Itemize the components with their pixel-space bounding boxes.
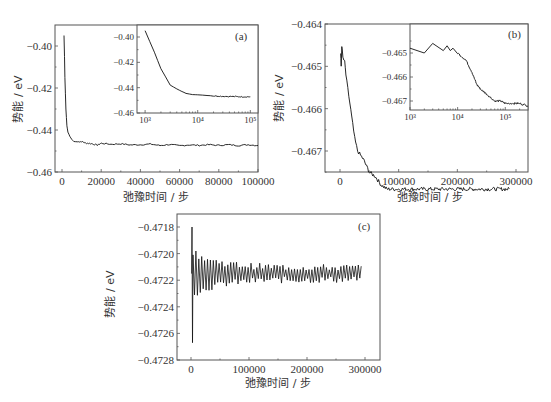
y-tick-label: −0.467 bbox=[291, 145, 322, 157]
y-tick-label: −0.465 bbox=[382, 48, 408, 58]
y-tick-label: −0.40 bbox=[113, 32, 134, 42]
chart-a-ylabel: 势能 / eV bbox=[11, 75, 25, 122]
chart-a-panel-label: (a) bbox=[235, 30, 248, 43]
x-tick-label: 300000 bbox=[349, 363, 383, 375]
y-tick-label: −0.46 bbox=[113, 108, 134, 118]
x-tick-label: 100000 bbox=[382, 175, 416, 187]
x-tick-label: 60000 bbox=[166, 175, 194, 187]
y-tick-label: −0.465 bbox=[291, 60, 322, 72]
y-tick-label: −0.4728 bbox=[138, 354, 175, 366]
x-tick-label: 40000 bbox=[127, 175, 155, 187]
chart-c-xlabel: 弛豫时间 / 步 bbox=[245, 376, 311, 390]
x-tick-label: 10³ bbox=[139, 115, 151, 125]
chart-c-curve bbox=[192, 227, 362, 343]
chart-c-axes: 0100000200000300000−0.4718−0.4720−0.4722… bbox=[138, 221, 382, 375]
y-tick-label: −0.466 bbox=[291, 103, 322, 115]
x-tick-label: 300000 bbox=[500, 175, 534, 187]
x-tick-label: 10⁴ bbox=[192, 115, 204, 125]
y-tick-label: −0.467 bbox=[382, 96, 408, 106]
y-tick-label: −0.42 bbox=[27, 82, 52, 94]
chart-a-xlabel: 弛豫时间 / 步 bbox=[123, 190, 189, 204]
y-tick-label: −0.4720 bbox=[138, 248, 175, 260]
x-tick-label: 0 bbox=[337, 175, 343, 187]
x-tick-label: 0 bbox=[188, 363, 194, 375]
y-tick-label: −0.40 bbox=[27, 40, 53, 52]
y-tick-label: −0.464 bbox=[291, 18, 322, 30]
x-tick-label: 10⁵ bbox=[499, 112, 511, 122]
x-tick-label: 10⁵ bbox=[244, 115, 256, 125]
chart-c-panel-label: (c) bbox=[358, 220, 371, 233]
x-tick-label: 200000 bbox=[441, 175, 475, 187]
x-tick-label: 80000 bbox=[205, 175, 233, 187]
chart-b-xlabel: 弛豫时间 / 步 bbox=[397, 190, 463, 204]
y-tick-label: −0.42 bbox=[113, 57, 134, 67]
y-tick-label: −0.44 bbox=[27, 124, 53, 136]
chart-c-frame bbox=[177, 214, 380, 360]
y-tick-label: −0.44 bbox=[113, 83, 134, 93]
chart-b-ylabel: 势能 / eV bbox=[272, 74, 286, 121]
x-tick-label: 20000 bbox=[87, 175, 115, 187]
chart-b: 0100000200000300000−0.464−0.465−0.466−0.… bbox=[272, 18, 533, 204]
x-tick-label: 200000 bbox=[291, 363, 325, 375]
x-tick-label: 100000 bbox=[242, 175, 276, 187]
y-tick-label: −0.46 bbox=[27, 166, 53, 178]
y-tick-label: −0.4718 bbox=[138, 221, 175, 233]
x-tick-label: 10³ bbox=[404, 112, 416, 122]
y-tick-label: −0.4722 bbox=[138, 274, 174, 286]
y-tick-label: −0.4726 bbox=[138, 327, 175, 339]
chart-c: 0100000200000300000−0.4718−0.4720−0.4722… bbox=[103, 214, 382, 390]
x-tick-label: 100000 bbox=[233, 363, 267, 375]
x-tick-label: 0 bbox=[59, 175, 65, 187]
figure: 020000400006000080000100000−0.40−0.42−0.… bbox=[0, 0, 551, 402]
chart-c-ylabel: 势能 / eV bbox=[103, 270, 117, 317]
x-tick-label: 10⁴ bbox=[452, 112, 464, 122]
chart-a: 020000400006000080000100000−0.40−0.42−0.… bbox=[11, 25, 275, 204]
chart-b-panel-label: (b) bbox=[508, 28, 521, 41]
y-tick-label: −0.466 bbox=[382, 72, 408, 82]
y-tick-label: −0.4724 bbox=[138, 301, 175, 313]
